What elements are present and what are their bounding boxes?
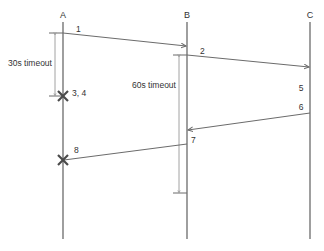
message-1-label: 1	[76, 24, 81, 34]
message-1-arrow	[63, 33, 186, 46]
failure-a-label: 3, 4	[72, 88, 86, 98]
message-8-label: 8	[74, 145, 79, 155]
sequence-diagram: A B C 30s timeout 60s timeout 1 2 5 6 7 …	[0, 0, 324, 251]
lifeline-label-b: B	[184, 10, 190, 20]
step-7-label: 7	[191, 135, 196, 145]
message-2-arrow	[187, 55, 309, 67]
message-6-label: 6	[299, 102, 304, 112]
lifeline-label-a: A	[60, 10, 66, 20]
timeout-a-label: 30s timeout	[8, 58, 53, 68]
message-6-arrow	[188, 113, 310, 130]
lifeline-label-c: C	[307, 10, 314, 20]
step-5-label: 5	[299, 83, 304, 93]
message-2-label: 2	[200, 46, 205, 56]
timeout-b-label: 60s timeout	[132, 80, 177, 90]
message-8-arrow	[64, 144, 187, 160]
